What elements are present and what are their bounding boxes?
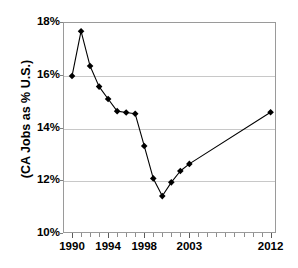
y-tick-label: 10% (20, 227, 60, 238)
x-tick-mark (144, 233, 145, 238)
y-tick-label: 14% (20, 122, 60, 133)
x-tick-mark (99, 233, 100, 237)
x-tick-mark (153, 233, 154, 237)
y-axis-title: (CA Jobs as % U.S.) (19, 9, 33, 229)
series-line (72, 31, 271, 196)
x-tick-mark (216, 233, 217, 237)
data-point-marker (150, 175, 157, 182)
x-tick-mark (117, 233, 118, 237)
data-point-marker (69, 73, 76, 80)
data-point-marker (78, 28, 85, 35)
data-point-marker (123, 109, 130, 116)
x-tick-mark (72, 233, 73, 238)
x-tick-mark (81, 233, 82, 237)
x-tick-mark (108, 233, 109, 238)
x-axis-tick-marks (63, 233, 276, 238)
data-series-layer (63, 22, 276, 233)
x-tick-mark (198, 233, 199, 237)
x-tick-mark (271, 233, 272, 238)
series-markers (69, 28, 274, 199)
x-tick-mark (207, 233, 208, 237)
x-tick-mark (171, 233, 172, 237)
x-tick-mark (189, 233, 190, 238)
y-tick-label: 12% (20, 174, 60, 185)
x-tick-label: 2012 (249, 240, 293, 252)
y-tick-label: 16% (20, 69, 60, 80)
x-tick-mark (90, 233, 91, 237)
data-point-marker (87, 63, 94, 70)
data-point-marker (267, 109, 274, 116)
x-tick-mark (180, 233, 181, 237)
x-tick-mark (135, 233, 136, 237)
x-tick-mark (126, 233, 127, 237)
x-tick-mark (253, 233, 254, 237)
x-tick-mark (225, 233, 226, 237)
x-tick-mark (244, 233, 245, 237)
data-point-marker (141, 143, 148, 150)
x-tick-mark (234, 233, 235, 237)
line-chart: (CA Jobs as % U.S.) 18%16%14%12%10% 1990… (0, 0, 298, 268)
x-tick-label: 2003 (167, 240, 211, 252)
data-point-marker (159, 193, 166, 200)
data-point-marker (132, 110, 139, 117)
x-tick-mark (262, 233, 263, 237)
x-tick-mark (162, 233, 163, 237)
y-tick-label: 18% (20, 16, 60, 27)
x-tick-label: 1998 (122, 240, 166, 252)
